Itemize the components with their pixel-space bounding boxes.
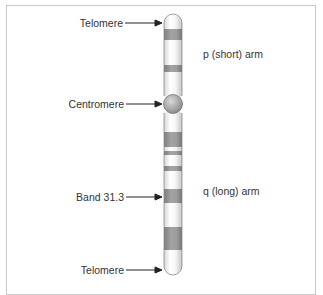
telomere-bottom-arrowhead: [155, 267, 162, 273]
centromere-label: Centromere: [69, 98, 124, 110]
centromere-arrowhead: [155, 101, 162, 107]
q-band-dark-1: [164, 132, 182, 147]
p-band-dark-2: [164, 65, 182, 72]
telomere-top-label: Telomere: [80, 17, 123, 29]
p-arm-body: [164, 10, 182, 102]
q-band-dark-5: [164, 227, 182, 250]
p-arm: [164, 10, 182, 102]
centromere-sphere: [164, 95, 183, 114]
q-band-dark-2: [164, 151, 182, 155]
band-31-3: [164, 189, 182, 203]
telomere-top-arrowhead: [155, 20, 162, 26]
q-band-dark-3: [164, 166, 182, 171]
q-arm: [164, 108, 182, 278]
q-arm-label: q (long) arm: [203, 185, 260, 197]
p-arm-label: p (short) arm: [203, 48, 263, 60]
p-band-dark-1: [164, 29, 182, 40]
band-arrowhead: [155, 194, 162, 200]
band-31-3-label: Band 31.3: [76, 191, 124, 203]
telomere-bottom-label: Telomere: [81, 264, 124, 276]
